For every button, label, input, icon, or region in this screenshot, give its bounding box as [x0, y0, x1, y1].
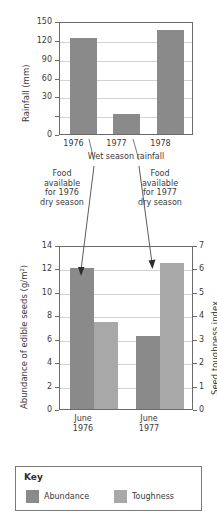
rainfall-ytick-label: 0 — [28, 131, 52, 139]
key-label-abundance: Abundance — [44, 492, 89, 501]
rainfall-ytick-label: 150 — [28, 18, 52, 26]
seeds-ytick-left — [55, 340, 59, 341]
seeds-ytick-right — [193, 246, 197, 247]
seeds-ytick-right — [193, 293, 197, 294]
seeds-ytick-left — [55, 269, 59, 270]
rainfall-ytick-label: 120 — [28, 37, 52, 45]
seeds-ytick-left — [55, 293, 59, 294]
seeds-ytick-left — [55, 246, 59, 247]
rainfall-xtick-label-1976: 1976 — [60, 139, 87, 149]
rainfall-ytick — [55, 135, 59, 136]
seeds-chart-plot-area — [59, 246, 193, 410]
rainfall-ytick-label: 30 — [28, 93, 52, 101]
seeds-xtick-label-month: June — [125, 414, 173, 424]
key-entry-toughness: Toughness — [114, 490, 174, 503]
rainfall-xtick-label-1978: 1978 — [147, 139, 174, 149]
rainfall-y-axis-title: Rainfall (mm) — [22, 65, 31, 123]
rainfall-x-axis-title: Wet season rainfall — [46, 152, 206, 162]
seeds-xtick-label-year: 1977 — [125, 424, 173, 434]
annotation-right-line-3: for 1977 — [126, 188, 194, 198]
seeds-ytick-label-right: 7 — [199, 242, 215, 250]
seeds-ytick-label-right: 5 — [199, 289, 215, 297]
rainfall-ytick — [55, 22, 59, 23]
seeds-ytick-right — [193, 387, 197, 388]
seeds-ytick-label-left: 2 — [31, 383, 52, 391]
rainfall-ytick — [55, 41, 59, 42]
annotation-left-line-4: dry season — [28, 198, 96, 208]
seeds-ytick-left — [55, 387, 59, 388]
seeds-ytick-label-left: 0 — [31, 406, 52, 414]
rainfall-bar-1978 — [157, 30, 184, 134]
rainfall-bar-1976 — [70, 38, 97, 134]
rainfall-ytick-label: 90 — [28, 56, 52, 64]
annotation-left-line-2: available — [28, 179, 96, 189]
seeds-bar-toughness-1977 — [160, 263, 184, 409]
rainfall-xtick-label-1977: 1977 — [103, 139, 130, 149]
rainfall-ytick — [55, 116, 59, 117]
annotation-left-line-3: for 1976 — [28, 188, 96, 198]
key-entry-abundance: Abundance — [26, 490, 89, 503]
key-title: Key — [24, 472, 43, 482]
seeds-ytick-right — [193, 340, 197, 341]
rainfall-chart-plot-area — [59, 22, 193, 135]
seeds-xtick-label-year: 1976 — [59, 424, 107, 434]
rainfall-ytick — [55, 79, 59, 80]
seeds-y-axis-title-right: Seed toughness index — [211, 301, 217, 395]
seeds-ytick-right — [193, 410, 197, 411]
rainfall-ytick — [55, 97, 59, 98]
annotation-right-line-4: dry season — [126, 198, 194, 208]
seeds-ytick-left — [55, 363, 59, 364]
seeds-xtick-label-month: June — [59, 414, 107, 424]
seeds-ytick-right — [193, 363, 197, 364]
key-swatch-abundance-icon — [26, 490, 39, 503]
seeds-ytick-label-left: 4 — [31, 359, 52, 367]
seeds-xtick-label-june-1977: June 1977 — [125, 414, 173, 433]
seeds-ytick-right — [193, 269, 197, 270]
seeds-y-axis-title-left: Abundance of edible seeds (g/m²) — [20, 265, 29, 409]
key-swatch-toughness-icon — [114, 490, 127, 503]
seeds-ytick-label-left: 12 — [31, 265, 52, 273]
annotation-left-1976: Food available for 1976 dry season — [28, 169, 96, 207]
seeds-ytick-label-right: 6 — [199, 265, 215, 273]
figure-root: 150 120 90 60 30 0 Rainfall (mm) 1976 19… — [0, 0, 217, 527]
seeds-ytick-right — [193, 316, 197, 317]
seeds-bar-toughness-1976 — [94, 322, 118, 409]
seeds-bar-abundance-1977 — [136, 336, 160, 409]
annotation-right-1977: Food available for 1977 dry season — [126, 169, 194, 207]
seeds-xtick-label-june-1976: June 1976 — [59, 414, 107, 433]
seeds-ytick-label-left: 14 — [31, 242, 52, 250]
seeds-bar-abundance-1976 — [70, 268, 94, 409]
annotation-right-line-2: available — [126, 179, 194, 189]
seeds-ytick-left — [55, 410, 59, 411]
seeds-ytick-label-left: 10 — [31, 289, 52, 297]
key-label-toughness: Toughness — [132, 492, 174, 501]
key-legend-box: Key Abundance Toughness — [15, 466, 202, 511]
rainfall-bar-1977 — [113, 114, 140, 134]
seeds-ytick-left — [55, 316, 59, 317]
seeds-ytick-label-left: 6 — [31, 336, 52, 344]
seeds-ytick-label-left: 8 — [31, 312, 52, 320]
annotation-left-line-1: Food — [28, 169, 96, 179]
rainfall-ytick — [55, 60, 59, 61]
annotation-right-line-1: Food — [126, 169, 194, 179]
rainfall-ytick-label: 60 — [28, 75, 52, 83]
seeds-ytick-label-right: 0 — [199, 406, 215, 414]
